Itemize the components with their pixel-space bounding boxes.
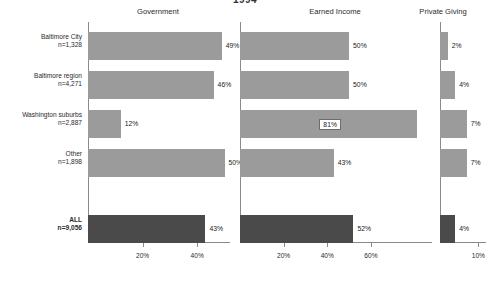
- panel-private-giving: 10%2%4%7%7%4%: [440, 22, 486, 265]
- bar-value-private-giving-row-0: 2%: [448, 32, 462, 60]
- row-label-washington-suburbs: Washington suburbs n=2,887: [0, 111, 82, 128]
- bar-earned-income-row-0: [240, 32, 349, 60]
- bar-value-earned-income-row-2: 81%: [319, 119, 341, 130]
- bar-value-earned-income-row-1: 50%: [349, 71, 367, 99]
- row-label-name: Baltimore region: [34, 72, 82, 79]
- bar-value-government-row-2: 12%: [121, 110, 139, 138]
- bar-private-giving-row-0: [440, 32, 448, 60]
- bar-government-row-4: [88, 215, 205, 243]
- bar-value-government-row-0: 49%: [222, 32, 240, 60]
- row-label-all: ALL n=9,056: [0, 216, 82, 233]
- panel-earned-income: 20%40%60%50%50%81%43%52%: [240, 22, 432, 265]
- bar-government-row-1: [88, 71, 214, 99]
- row-label-n: n=1,328: [0, 41, 82, 49]
- bar-value-private-giving-row-1: 4%: [455, 71, 469, 99]
- row-label-n: n=9,056: [0, 224, 82, 232]
- row-label-n: n=2,887: [0, 119, 82, 127]
- x-tick-government-1: [197, 243, 198, 247]
- row-label-baltimore-region: Baltimore region n=4,271: [0, 72, 82, 89]
- bar-earned-income-row-4: [240, 215, 353, 243]
- x-tick-earned-income-1: [327, 243, 328, 247]
- row-label-name: Other: [66, 150, 83, 157]
- chart-title: 1994: [0, 0, 490, 5]
- row-label-name: Washington suburbs: [22, 111, 82, 118]
- bar-government-row-2: [88, 110, 121, 138]
- panel-header-private-giving: Private Giving: [398, 7, 488, 16]
- row-label-other: Other n=1,898: [0, 150, 82, 167]
- bar-earned-income-row-1: [240, 71, 349, 99]
- x-tick-label-government-0: 20%: [136, 252, 149, 259]
- bar-value-earned-income-row-3: 43%: [334, 149, 352, 177]
- bar-value-private-giving-row-3: 7%: [467, 149, 481, 177]
- x-tick-label-earned-income-2: 60%: [364, 252, 377, 259]
- bar-value-earned-income-row-4: 52%: [353, 215, 371, 243]
- bar-value-government-row-1: 46%: [214, 71, 232, 99]
- bar-private-giving-row-1: [440, 71, 455, 99]
- bar-government-row-0: [88, 32, 222, 60]
- row-label-n: n=4,271: [0, 80, 82, 88]
- x-tick-label-earned-income-0: 20%: [277, 252, 290, 259]
- bar-earned-income-row-3: [240, 149, 334, 177]
- panel-government: 20%40%49%46%12%50%43%: [88, 22, 230, 265]
- grouped-bar-chart: 1994 Government Earned Income Private Gi…: [0, 0, 490, 288]
- x-tick-label-government-1: 40%: [191, 252, 204, 259]
- bar-private-giving-row-4: [440, 215, 455, 243]
- bar-value-private-giving-row-4: 4%: [455, 215, 469, 243]
- bar-value-private-giving-row-2: 7%: [467, 110, 481, 138]
- bar-value-earned-income-row-0: 50%: [349, 32, 367, 60]
- bar-government-row-3: [88, 149, 225, 177]
- row-label-name: ALL: [69, 216, 82, 223]
- x-tick-label-earned-income-1: 40%: [321, 252, 334, 259]
- row-label-n: n=1,898: [0, 158, 82, 166]
- bar-private-giving-row-3: [440, 149, 467, 177]
- row-label-baltimore-city: Baltimore City n=1,328: [0, 33, 82, 50]
- x-tick-earned-income-2: [371, 243, 372, 247]
- x-tick-government-0: [143, 243, 144, 247]
- bar-value-government-row-4: 43%: [205, 215, 223, 243]
- x-tick-label-private-giving-0: 10%: [472, 252, 485, 259]
- panel-header-government: Government: [88, 7, 228, 16]
- x-tick-earned-income-0: [284, 243, 285, 247]
- x-tick-private-giving-0: [478, 243, 479, 247]
- row-label-name: Baltimore City: [41, 33, 82, 40]
- bar-private-giving-row-2: [440, 110, 467, 138]
